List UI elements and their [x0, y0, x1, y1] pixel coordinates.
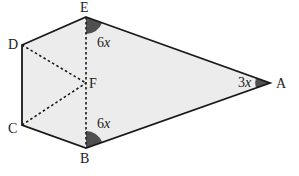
angle-label-E: 6x [97, 36, 110, 50]
angle-B-coef: 6 [97, 116, 104, 131]
geometry-diagram: E D F C B A 6x 6x 3x [0, 0, 299, 176]
angle-A-coef: 3 [238, 75, 245, 90]
point-label-F: F [89, 77, 97, 91]
diagram-svg [0, 0, 299, 176]
angle-A-var: x [245, 75, 251, 90]
angle-label-B: 6x [97, 117, 110, 131]
angle-E-var: x [104, 35, 110, 50]
point-label-C: C [8, 122, 17, 136]
angle-E-coef: 6 [97, 35, 104, 50]
angle-B-var: x [104, 116, 110, 131]
pentagon-shape [22, 17, 270, 148]
angle-label-A: 3x [238, 76, 251, 90]
point-label-B: B [80, 152, 89, 166]
point-label-E: E [80, 1, 89, 15]
point-label-A: A [276, 77, 286, 91]
point-label-D: D [8, 38, 18, 52]
